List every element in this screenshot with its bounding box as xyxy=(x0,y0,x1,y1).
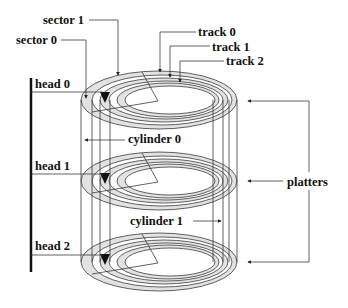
track-1-label: track 1 xyxy=(212,40,250,54)
head-2-label: head 2 xyxy=(35,239,70,253)
track-0-label: track 0 xyxy=(198,25,236,39)
platter-0 xyxy=(81,71,237,129)
head-0-label: head 0 xyxy=(35,77,70,91)
sector-0-label: sector 0 xyxy=(16,33,57,47)
cylinder-1-label: cylinder 1 xyxy=(130,214,183,228)
cylinder-0-label: cylinder 0 xyxy=(128,132,181,146)
sector-1-label: sector 1 xyxy=(43,13,84,27)
disk-diagram: head 0 head 1 head 2 sector 1 sector 0 t… xyxy=(0,0,348,308)
track-2-label: track 2 xyxy=(226,54,264,68)
platters-label: platters xyxy=(287,175,328,189)
platter-1 xyxy=(81,152,237,210)
head-1-label: head 1 xyxy=(35,159,70,173)
platter-2 xyxy=(81,233,237,291)
